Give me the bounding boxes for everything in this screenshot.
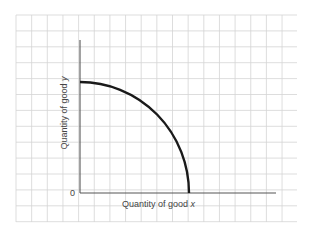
origin-label: 0: [70, 188, 75, 198]
ppf-diagram: 0 Quantity of good x Quantity of good y: [0, 0, 312, 239]
x-axis-label: Quantity of good x: [122, 199, 196, 209]
y-axis-label: Quantity of good y: [59, 76, 69, 150]
